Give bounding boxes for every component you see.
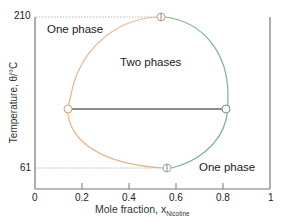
right-phase-boundary-curve <box>165 17 228 168</box>
markers <box>64 13 230 172</box>
x-axis-title: Mole fraction, xNicotine <box>95 203 190 217</box>
y-tick-210: 210 <box>14 10 31 21</box>
x-axis-title-subscript: Nicotine <box>166 210 189 217</box>
tie-line-left-marker <box>64 105 72 113</box>
region-label-one-phase-top: One phase <box>47 23 103 35</box>
phase-diagram-plot <box>0 0 285 223</box>
left-phase-boundary-curve <box>68 17 163 168</box>
x-tick-0.4: 0.4 <box>122 192 136 203</box>
tie-line-right-marker <box>222 105 230 113</box>
x-tick-0: 0 <box>32 192 38 203</box>
x-axis-title-main: Mole fraction, x <box>95 203 166 215</box>
y-tick-61: 61 <box>20 162 31 173</box>
x-tick-0.2: 0.2 <box>75 192 89 203</box>
x-tick-1: 1 <box>268 192 274 203</box>
x-tick-0.8: 0.8 <box>216 192 230 203</box>
region-label-one-phase-bottom: One phase <box>199 161 255 173</box>
x-ticks <box>82 183 223 189</box>
y-axis-title: Temperature, θ/°C <box>8 48 19 158</box>
x-tick-0.6: 0.6 <box>169 192 183 203</box>
region-label-two-phases: Two phases <box>120 56 181 68</box>
